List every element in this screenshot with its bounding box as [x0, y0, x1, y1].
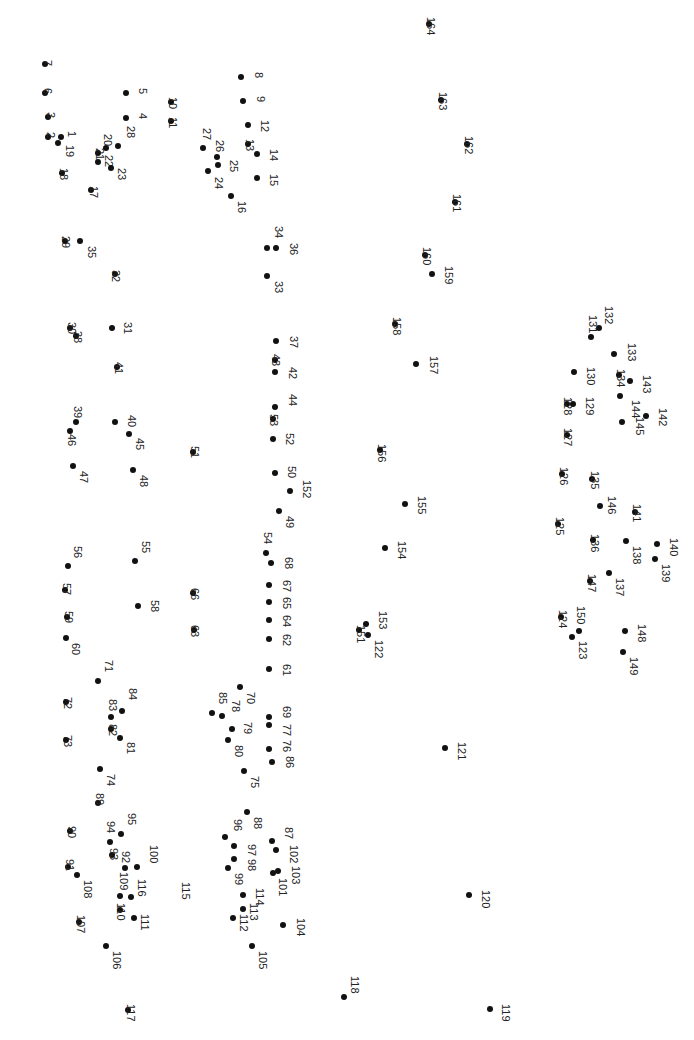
- dot-number-label: 68: [283, 557, 294, 569]
- dot-number-label: 53: [268, 414, 279, 426]
- puzzle-dot: [264, 273, 270, 279]
- dot-number-label: 6: [42, 88, 53, 94]
- puzzle-dot: [108, 165, 114, 171]
- dot-number-label: 62: [281, 634, 292, 646]
- puzzle-dot: [240, 98, 246, 104]
- puzzle-dot: [200, 145, 206, 151]
- dot-number-label: 96: [232, 819, 243, 831]
- dot-number-label: 36: [288, 243, 299, 255]
- puzzle-dot: [268, 560, 274, 566]
- puzzle-dot: [115, 143, 121, 149]
- puzzle-dot: [276, 508, 282, 514]
- puzzle-dot: [272, 404, 278, 410]
- dot-number-label: 123: [577, 641, 588, 659]
- puzzle-dot: [119, 708, 125, 714]
- dot-number-label: 19: [64, 145, 75, 157]
- dot-number-label: 143: [641, 375, 652, 393]
- dot-number-label: 155: [416, 496, 427, 514]
- puzzle-dot: [122, 865, 128, 871]
- puzzle-dot: [275, 868, 281, 874]
- dot-number-label: 131: [587, 315, 598, 333]
- dot-number-label: 49: [284, 516, 295, 528]
- dot-number-label: 39: [72, 406, 83, 418]
- dot-number-label: 89: [94, 793, 105, 805]
- puzzle-dot: [74, 872, 80, 878]
- dot-number-label: 38: [72, 331, 83, 343]
- puzzle-dot: [77, 238, 83, 244]
- puzzle-dot: [215, 162, 221, 168]
- dot-number-label: 107: [75, 915, 86, 933]
- puzzle-dot: [73, 419, 79, 425]
- dot-number-label: 152: [301, 480, 312, 498]
- dot-number-label: 56: [72, 546, 83, 558]
- dot-number-label: 48: [138, 475, 149, 487]
- puzzle-dot: [654, 541, 660, 547]
- dot-number-label: 102: [288, 845, 299, 863]
- dot-number-label: 12: [259, 120, 270, 132]
- puzzle-dot: [571, 369, 577, 375]
- puzzle-dot: [413, 361, 419, 367]
- dot-number-label: 130: [585, 367, 596, 385]
- puzzle-dot: [55, 140, 61, 146]
- dot-number-label: 162: [463, 136, 474, 154]
- puzzle-dot: [58, 134, 64, 140]
- puzzle-dot: [128, 894, 134, 900]
- dot-number-label: 32: [110, 270, 121, 282]
- dot-number-label: 52: [284, 433, 295, 445]
- dot-number-label: 18: [58, 168, 69, 180]
- dot-number-label: 35: [86, 246, 97, 258]
- dot-number-label: 81: [125, 742, 136, 754]
- puzzle-dot: [126, 431, 132, 437]
- dot-number-label: 54: [262, 532, 273, 544]
- dot-number-label: 55: [140, 541, 151, 553]
- puzzle-dot: [95, 159, 101, 165]
- puzzle-dot: [270, 436, 276, 442]
- dot-number-label: 97: [246, 844, 257, 856]
- dot-number-label: 43: [270, 354, 281, 366]
- puzzle-dot: [280, 922, 286, 928]
- puzzle-dot: [570, 401, 576, 407]
- puzzle-dot: [214, 154, 220, 160]
- dot-number-label: 105: [257, 951, 268, 969]
- puzzle-dot: [272, 369, 278, 375]
- dot-number-label: 156: [376, 444, 387, 462]
- puzzle-dot: [107, 839, 113, 845]
- dot-number-label: 79: [242, 722, 253, 734]
- puzzle-dot: [627, 378, 633, 384]
- dot-number-label: 133: [626, 343, 637, 361]
- dot-number-label: 67: [281, 580, 292, 592]
- puzzle-dot: [109, 325, 115, 331]
- puzzle-dot: [273, 338, 279, 344]
- puzzle-dot: [272, 470, 278, 476]
- dot-number-label: 148: [636, 624, 647, 642]
- dot-number-label: 41: [113, 362, 124, 374]
- dot-number-label: 118: [349, 976, 360, 994]
- puzzle-dot: [225, 865, 231, 871]
- dot-number-label: 138: [631, 546, 642, 564]
- dot-number-label: 59: [63, 611, 74, 623]
- dot-number-label: 86: [284, 756, 295, 768]
- dot-number-label: 24: [213, 177, 224, 189]
- puzzle-dot: [231, 856, 237, 862]
- puzzle-dot: [205, 168, 211, 174]
- dot-number-label: 76: [281, 740, 292, 752]
- dot-number-label: 164: [425, 17, 436, 35]
- dot-number-label: 34: [273, 226, 284, 238]
- dot-number-label: 20: [102, 134, 113, 146]
- puzzle-dot: [240, 906, 246, 912]
- puzzle-dot: [135, 603, 141, 609]
- puzzle-dot: [597, 503, 603, 509]
- dot-number-label: 154: [396, 541, 407, 559]
- puzzle-dot: [266, 666, 272, 672]
- dot-number-label: 61: [281, 664, 292, 676]
- puzzle-dot: [134, 864, 140, 870]
- puzzle-dot: [65, 563, 71, 569]
- dot-number-label: 109: [118, 872, 129, 890]
- puzzle-dot: [95, 678, 101, 684]
- puzzle-dot: [429, 271, 435, 277]
- dot-number-label: 45: [134, 438, 145, 450]
- puzzle-dot: [287, 488, 293, 494]
- dot-number-label: 74: [105, 774, 116, 786]
- puzzle-dot: [264, 245, 270, 251]
- dot-number-label: 106: [111, 951, 122, 969]
